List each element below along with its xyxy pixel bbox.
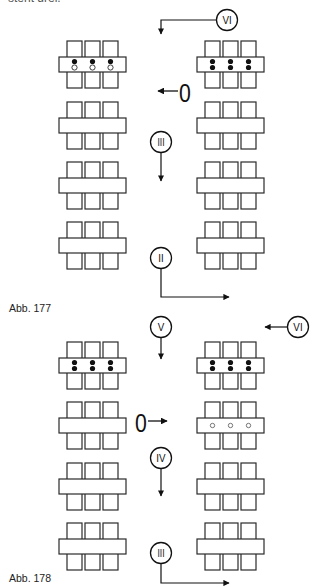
roman-numeral-label: III (157, 138, 164, 149)
roman-numeral-label: VI (222, 13, 231, 26)
table-group (197, 102, 264, 149)
markers: VI0IIIIIVVI0IVIII (135, 10, 309, 584)
table (59, 118, 126, 133)
filled-dot (228, 65, 233, 70)
table-group (197, 463, 264, 510)
open-dot (228, 423, 232, 427)
filled-dot (228, 366, 233, 371)
filled-dot (72, 360, 77, 365)
table-group (59, 523, 126, 570)
open-dot (90, 65, 95, 70)
roman-numeral-label: III (157, 549, 164, 560)
table-group (197, 222, 264, 269)
open-dot (72, 65, 77, 70)
table-group (59, 102, 126, 149)
filled-dot (90, 59, 95, 64)
filled-dot (90, 366, 95, 371)
filled-dot (108, 360, 113, 365)
filled-dot (210, 59, 215, 64)
filled-dot (228, 360, 233, 365)
marker-0: 0 (158, 79, 191, 107)
table-group (59, 162, 126, 209)
seating-diagram-canvas: VI0IIIIIVVI0IVIII (0, 0, 326, 587)
direction-arrow-icon (161, 20, 217, 34)
table-group (59, 342, 126, 389)
direction-arrow-icon (161, 269, 229, 298)
table-group (197, 523, 264, 570)
filled-dot (210, 366, 215, 371)
filled-dot (210, 65, 215, 70)
roman-numeral-label: II (158, 251, 163, 264)
zero-label: 0 (179, 79, 191, 107)
table-group (59, 402, 126, 449)
filled-dot (108, 366, 113, 371)
open-dot (246, 423, 250, 427)
table (197, 118, 264, 133)
table (59, 238, 126, 253)
marker-iii: III (151, 132, 172, 182)
table (59, 479, 126, 494)
marker-0: 0 (135, 409, 167, 437)
filled-dot (72, 59, 77, 64)
filled-dot (246, 366, 251, 371)
table-group (59, 222, 126, 269)
filled-dot (228, 59, 233, 64)
filled-dot (72, 366, 77, 371)
table (197, 539, 264, 554)
table (197, 479, 264, 494)
roman-numeral-label: VI (293, 320, 302, 333)
filled-dot (246, 65, 251, 70)
open-dot (210, 423, 214, 427)
table (59, 418, 126, 433)
figure-caption-177: Abb. 177 (9, 302, 51, 314)
roman-numeral-label: V (158, 320, 165, 333)
table (59, 178, 126, 193)
marker-iv: IV (151, 448, 172, 497)
filled-dot (108, 59, 113, 64)
marker-vi: VI (265, 317, 309, 338)
marker-v: V (151, 317, 172, 360)
roman-numeral-label: IV (156, 451, 166, 464)
table (197, 238, 264, 253)
filled-dot (90, 360, 95, 365)
filled-dot (246, 59, 251, 64)
table-group (59, 41, 126, 88)
table-group (59, 463, 126, 510)
table (59, 539, 126, 554)
marker-vi: VI (161, 10, 238, 35)
zero-label: 0 (135, 409, 147, 437)
filled-dot (210, 360, 215, 365)
table-group (197, 162, 264, 209)
table-group (197, 342, 264, 389)
table-group (197, 41, 264, 88)
table (197, 178, 264, 193)
figure-caption-178: Abb. 178 (9, 572, 51, 584)
filled-dot (246, 360, 251, 365)
open-dot (108, 65, 113, 70)
table-group (197, 402, 264, 449)
